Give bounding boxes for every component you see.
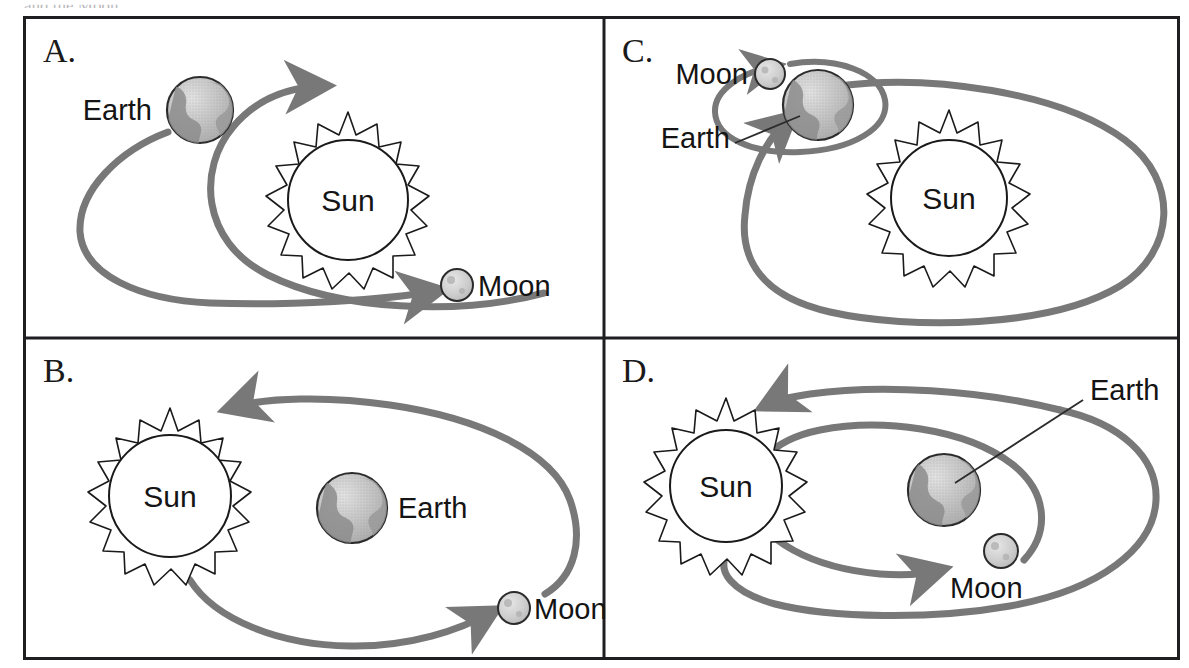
sun-icon: Sun <box>266 112 429 289</box>
sun-label: Sun <box>143 480 196 513</box>
moon-icon: Moon <box>675 58 785 90</box>
moon-label: Moon <box>675 58 748 90</box>
moon-icon: Moon <box>441 269 551 302</box>
earth-label: Earth <box>661 122 730 154</box>
panel-d-letter: D. <box>622 352 655 389</box>
sun-label: Sun <box>922 182 975 215</box>
panel-b-letter: B. <box>43 352 74 389</box>
panel-a[interactable]: A. Sun Earth <box>43 32 551 307</box>
earth-label: Earth <box>83 94 152 126</box>
sun-icon: Sun <box>88 408 251 585</box>
panel-c-letter: C. <box>622 32 653 69</box>
sun-label: Sun <box>699 470 752 503</box>
moon-icon: Moon <box>950 534 1023 604</box>
earth-label: Earth <box>1090 374 1159 406</box>
panel-b[interactable]: B. Sun Earth <box>43 352 607 646</box>
figure-canvas: and the Moon. <box>0 0 1189 668</box>
diagram-svg: A. Sun Earth <box>0 0 1189 668</box>
earth-globe-icon: Earth <box>317 473 467 568</box>
panel-d[interactable]: D. Sun <box>622 352 1159 639</box>
moon-icon: Moon <box>498 592 607 625</box>
moon-label: Moon <box>950 572 1023 604</box>
sun-label: Sun <box>321 184 374 217</box>
moon-label: Moon <box>478 270 551 302</box>
panel-c[interactable]: C. Sun <box>622 32 1164 323</box>
sun-icon: Sun <box>644 398 807 575</box>
panel-a-letter: A. <box>43 32 76 69</box>
sun-icon: Sun <box>867 110 1030 287</box>
moon-label: Moon <box>534 593 607 625</box>
earth-label: Earth <box>398 492 467 524</box>
